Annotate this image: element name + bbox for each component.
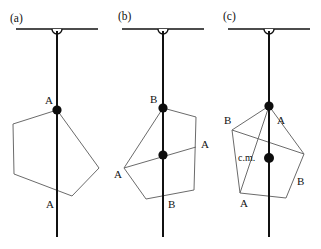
chord-a-a-c: [240, 106, 269, 193]
vertex-label-a-b-2: A: [114, 168, 122, 180]
suspension-point-c: [264, 101, 273, 110]
suspension-point-a: [52, 105, 61, 114]
panel-label-b: (b): [118, 10, 132, 23]
panel-a: (a)AA: [10, 12, 99, 237]
figure-canvas: (a)AA(b)BBAA(c)BBAAc.m.: [0, 0, 321, 249]
vertex-label-a-c-3: A: [240, 197, 248, 209]
center-of-mass-point: [264, 153, 274, 163]
panel-b: (b)BBAA: [114, 10, 209, 237]
vertex-label-a-c-2: A: [277, 114, 285, 126]
panel-c: (c)BBAAc.m.: [223, 10, 310, 237]
panel-label-a: (a): [10, 12, 23, 25]
vertex-label-a-a-0: A: [45, 94, 53, 106]
vertex-label-a-b-3: A: [201, 138, 209, 150]
vertex-label-a-a-1: A: [46, 198, 54, 210]
suspension-point-b: [158, 103, 167, 112]
vertex-label-b-c-1: B: [297, 175, 304, 187]
vertex-label-b-c-0: B: [224, 114, 231, 126]
center-of-mass-label: c.m.: [238, 152, 255, 163]
vertex-label-b-b-0: B: [150, 93, 157, 105]
panel-label-c: (c): [223, 10, 236, 23]
physics-figure-center-of-mass: (a)AA(b)BBAA(c)BBAAc.m.: [0, 0, 321, 249]
vertex-label-b-b-1: B: [168, 198, 175, 210]
plumb-chord-intersection: [158, 150, 167, 159]
